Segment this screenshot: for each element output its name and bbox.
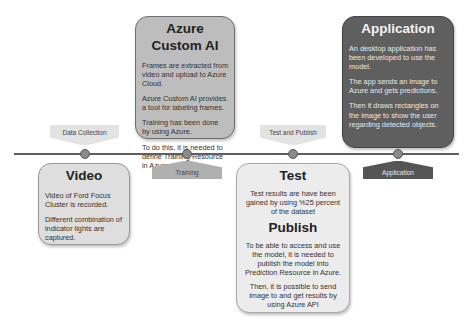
timeline-marker-test-publish [288,149,298,159]
stage-tag-application: Application [363,161,433,179]
application-box: Application An desktop application has b… [342,16,454,148]
test-publish-box: Test Test results are have been gained b… [236,163,350,313]
publish-title: Publish [243,220,343,237]
azure-paragraph: Training has been done by using Azure. [142,118,228,136]
video-title: Video [45,168,123,185]
azure-paragraph: Frames are extracted from video and uplo… [142,61,228,88]
timeline-marker-application [393,149,403,159]
application-title: Application [349,21,447,38]
test-paragraph: Test results are have been gained by usi… [243,189,343,216]
timeline-marker-training [182,149,192,159]
video-box: Video Video of Ford Focus Cluster is rec… [38,163,130,245]
azure-custom-ai-box: Azure Custom AI Frames are extracted fro… [135,16,235,139]
azure-custom-ai-title: Azure Custom AI [142,21,228,55]
publish-paragraph: To be able to access and use the model, … [243,241,343,277]
stage-label: Data Collection [62,129,106,136]
stage-label: Application [382,169,414,176]
publish-paragraph: Then, it is possible to send image to an… [243,282,343,309]
application-paragraph: Then it draws rectangles on the image to… [349,101,447,128]
stage-label: Training [175,169,198,176]
azure-paragraph: Azure Custom AI provides a tool for labe… [142,94,228,112]
stage-label: Test and Publish [269,129,317,136]
test-title: Test [243,168,343,185]
timeline-marker-data-collection [80,149,90,159]
video-paragraph: Video of Ford Focus Cluster is recorded. [45,191,123,209]
application-paragraph: The app sends an image to Azure and gets… [349,77,447,95]
stage-tag-test-and-publish: Test and Publish [260,125,326,145]
application-paragraph: An desktop application has been develope… [349,44,447,71]
video-paragraph: Different combination of indicator light… [45,215,123,242]
stage-tag-data-collection: Data Collection [50,125,119,145]
